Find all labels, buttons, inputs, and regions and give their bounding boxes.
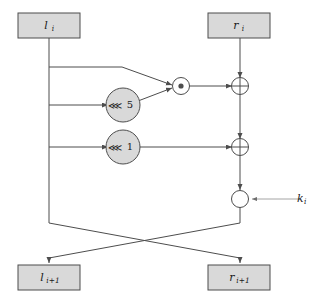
key-mix-circle xyxy=(232,191,249,208)
round-key-subscript: i xyxy=(304,197,307,206)
rotate-left-5-operator: ⋘ xyxy=(108,100,122,111)
modular-multiply-node xyxy=(173,78,190,95)
rotate-left-5-amount: 5 xyxy=(127,99,133,110)
left-output-register-label: l xyxy=(40,271,44,284)
rotate-left-5-node: ⋘ 5 xyxy=(106,88,140,122)
right-input-register: r i xyxy=(208,13,270,38)
feistel-round-diagram: l i r i l i+1 r i+1 xyxy=(0,0,317,306)
diagram-page: l i r i l i+1 r i+1 xyxy=(0,0,317,306)
left-output-register-subscript: i+1 xyxy=(46,276,59,285)
left-output-register: l i+1 xyxy=(18,265,80,290)
xor-top-node xyxy=(232,78,249,95)
right-output-register-label: r xyxy=(229,271,235,284)
left-input-register: l i xyxy=(18,13,80,38)
left-to-right-crossover-wire xyxy=(49,223,240,263)
right-to-left-crossover-wire xyxy=(49,223,240,263)
modular-multiply-dot-icon xyxy=(178,83,183,88)
left-input-register-label: l xyxy=(44,19,48,32)
right-input-register-label: r xyxy=(233,19,239,32)
round-key-label-group: k i xyxy=(297,192,307,206)
rotate-left-1-amount: 1 xyxy=(127,141,133,152)
left-direct-branch-wire xyxy=(49,67,172,85)
rotate-left-1-operator: ⋘ xyxy=(108,142,122,153)
xor-middle-node xyxy=(232,139,249,156)
right-output-register: r i+1 xyxy=(208,265,270,290)
rotate5-to-multiply-wire xyxy=(138,88,172,101)
right-input-register-box xyxy=(208,13,270,38)
key-mix-node xyxy=(232,191,249,208)
rotate-left-1-node: ⋘ 1 xyxy=(106,130,140,164)
right-output-register-subscript: i+1 xyxy=(236,276,249,285)
round-key-label: k xyxy=(297,192,304,205)
left-input-register-box xyxy=(18,13,80,38)
